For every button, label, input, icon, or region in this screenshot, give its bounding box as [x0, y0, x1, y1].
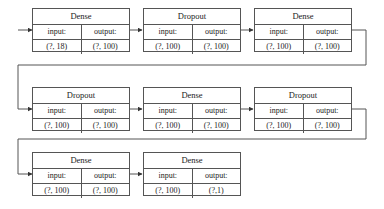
output-label: output:: [81, 104, 130, 118]
output-shape: (?, 100): [81, 40, 130, 54]
input-label: input:: [255, 25, 303, 39]
input-label: input:: [144, 104, 192, 118]
output-shape: (?, 100): [192, 119, 241, 133]
output-label: output:: [81, 25, 130, 39]
layer-name: Dense: [33, 153, 129, 169]
layer-node-8: Dense input:output: (?, 100)(?,1): [143, 152, 241, 196]
output-label: output:: [81, 169, 130, 183]
output-shape: (?, 100): [303, 40, 352, 54]
input-shape: (?, 100): [255, 119, 303, 133]
output-shape: (?, 100): [81, 184, 130, 198]
output-label: output:: [192, 25, 241, 39]
input-shape: (?, 100): [255, 40, 303, 54]
input-label: input:: [33, 25, 81, 39]
output-shape: (?, 100): [303, 119, 352, 133]
layer-name: Dropout: [33, 88, 129, 104]
output-label: output:: [303, 104, 352, 118]
output-shape: (?, 100): [81, 119, 130, 133]
input-shape: (?, 100): [144, 119, 192, 133]
layer-name: Dropout: [255, 88, 351, 104]
input-shape: (?, 100): [33, 119, 81, 133]
layer-node-6: Dropout input:output: (?, 100)(?, 100): [254, 87, 352, 131]
output-label: output:: [192, 169, 241, 183]
layer-node-2: Dropout input:output: (?, 100)(?, 100): [143, 8, 241, 52]
input-label: input:: [33, 169, 81, 183]
output-label: output:: [192, 104, 241, 118]
layer-name: Dense: [144, 88, 240, 104]
input-shape: (?, 100): [144, 40, 192, 54]
input-shape: (?, 18): [33, 40, 81, 54]
layer-name: Dense: [33, 9, 129, 25]
input-shape: (?, 100): [144, 184, 192, 198]
layer-node-4: Dropout input:output: (?, 100)(?, 100): [32, 87, 130, 131]
input-label: input:: [33, 104, 81, 118]
layer-node-5: Dense input:output: (?, 100)(?, 100): [143, 87, 241, 131]
output-shape: (?, 100): [192, 40, 241, 54]
layer-node-1: Dense input:output: (?, 18)(?, 100): [32, 8, 130, 52]
layer-name: Dense: [144, 153, 240, 169]
output-label: output:: [303, 25, 352, 39]
layer-name: Dense: [255, 9, 351, 25]
input-label: input:: [255, 104, 303, 118]
output-shape: (?,1): [192, 184, 241, 198]
layer-node-3: Dense input:output: (?, 100)(?, 100): [254, 8, 352, 52]
layer-name: Dropout: [144, 9, 240, 25]
input-label: input:: [144, 25, 192, 39]
input-label: input:: [144, 169, 192, 183]
input-shape: (?, 100): [33, 184, 81, 198]
layer-node-7: Dense input:output: (?, 100)(?, 100): [32, 152, 130, 196]
